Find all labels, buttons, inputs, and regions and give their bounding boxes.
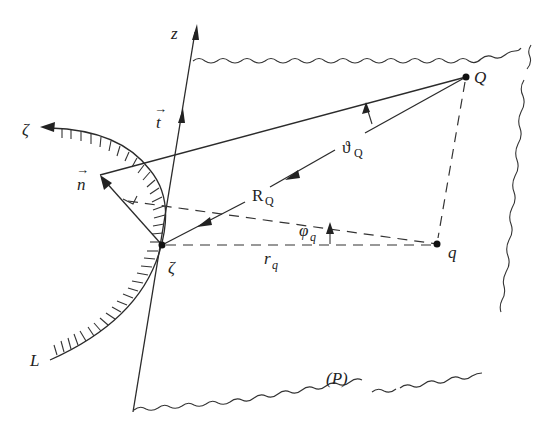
R-Q-arrowhead-upper-icon bbox=[285, 170, 300, 180]
svg-text:ϑ: ϑ bbox=[342, 138, 351, 157]
point-Q bbox=[463, 74, 470, 81]
label-q-point: q bbox=[448, 243, 457, 262]
label-phi-q: φ q bbox=[299, 221, 316, 244]
label-R-Q: R Q bbox=[252, 186, 274, 208]
point-zeta bbox=[159, 242, 166, 249]
geometry-diagram: z t → n → ζ ζ Q q ϑ Q R Q φ q r q L (P) bbox=[0, 0, 552, 425]
t-vector-arrow-icon: → bbox=[154, 101, 167, 116]
label-plane-P: (P) bbox=[326, 369, 348, 388]
svg-text:q: q bbox=[272, 258, 278, 272]
svg-text:n: n bbox=[77, 175, 86, 194]
label-t-vector: t → bbox=[154, 101, 167, 132]
label-theta-Q: ϑ Q bbox=[342, 138, 363, 160]
svg-text:φ: φ bbox=[299, 221, 308, 240]
plane-bottom-edge bbox=[134, 373, 482, 410]
label-r-q: r q bbox=[264, 249, 278, 272]
svg-text:Q: Q bbox=[265, 194, 274, 208]
dashed-line-to-q bbox=[128, 201, 437, 244]
label-zeta-curve-end: ζ bbox=[22, 120, 30, 139]
plane-right-edge bbox=[500, 45, 531, 312]
svg-text:q: q bbox=[310, 230, 316, 244]
theta-arrowhead-icon bbox=[362, 102, 370, 114]
label-n-vector: n → bbox=[76, 162, 89, 194]
t-vector-arrowhead-icon bbox=[178, 108, 185, 123]
phi-angle-marker bbox=[326, 222, 334, 244]
svg-text:r: r bbox=[264, 249, 271, 268]
plane-top-edge bbox=[193, 48, 521, 63]
n-vector-arrow-icon: → bbox=[76, 162, 89, 177]
R-Q-arrowhead-lower-icon bbox=[197, 217, 212, 227]
svg-text:R: R bbox=[252, 186, 264, 205]
point-q bbox=[434, 241, 441, 248]
line-n-to-Q bbox=[100, 77, 466, 175]
label-z-axis: z bbox=[170, 24, 178, 43]
curve-zeta-arrowhead-icon bbox=[40, 122, 55, 132]
phi-arrowhead-icon bbox=[326, 222, 334, 234]
label-zeta-point: ζ bbox=[168, 258, 176, 277]
label-curve-L: L bbox=[29, 351, 39, 370]
Q-to-q-dashed-line bbox=[438, 82, 465, 238]
svg-text:Q: Q bbox=[354, 146, 363, 160]
label-Q-point: Q bbox=[474, 68, 486, 87]
plane-boundary bbox=[134, 45, 531, 410]
z-axis-arrowhead-icon bbox=[192, 24, 199, 40]
theta-angle-marker bbox=[362, 102, 372, 124]
R-Q-vector bbox=[162, 77, 466, 245]
n-vector bbox=[100, 175, 162, 245]
